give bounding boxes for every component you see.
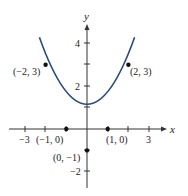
tick-label-x-3: 3 — [146, 134, 151, 145]
point-1-0 — [106, 127, 110, 131]
point-label-0-neg1: (0, −1) — [53, 152, 80, 164]
point-neg1-0 — [64, 127, 68, 131]
parabola-chart: x y −3 3 4 2 −2 (−2, 3) (2, 3) (−1, 0) (… — [0, 0, 188, 196]
x-axis-arrow-icon — [161, 127, 167, 132]
point-label-2-3: (2, 3) — [130, 66, 152, 78]
tick-label-y-4: 4 — [75, 38, 80, 49]
y-axis-arrow-icon — [85, 24, 90, 30]
x-axis-label: x — [169, 123, 175, 135]
point-neg2-3 — [43, 63, 47, 67]
y-axis-label: y — [83, 10, 89, 22]
tick-label-y-neg2: −2 — [70, 166, 81, 177]
tick-label-x-neg3: −3 — [19, 134, 30, 145]
tick-label-y-2: 2 — [75, 81, 80, 92]
point-0-neg1 — [85, 148, 89, 152]
point-label-1-0: (1, 0) — [106, 134, 128, 146]
point-label-neg2-3: (−2, 3) — [13, 66, 40, 78]
point-label-neg1-0: (−1, 0) — [36, 134, 63, 146]
